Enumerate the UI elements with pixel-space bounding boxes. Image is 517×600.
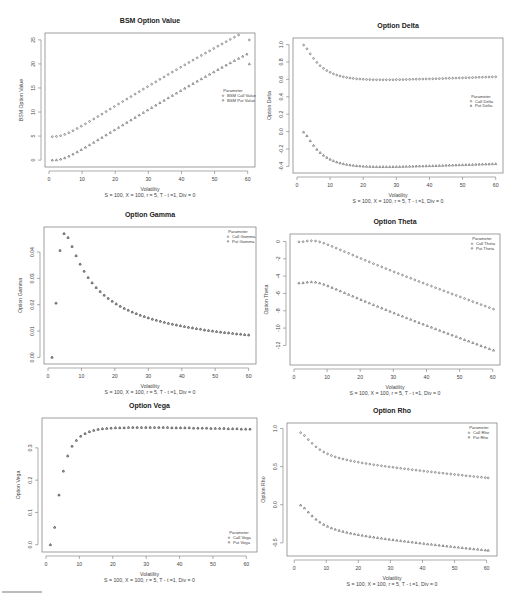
y-tick-label: 15 <box>30 85 36 91</box>
y-axis-label: Option Vega <box>15 471 21 500</box>
plot-frame <box>42 418 257 552</box>
x-tick-label: 30 <box>145 373 151 379</box>
x-tick-label: 0 <box>293 565 296 571</box>
y-tick-label: 20 <box>30 61 36 67</box>
legend-circle-icon <box>468 432 470 434</box>
x-tick-label: 40 <box>427 182 433 188</box>
figure-caption-fragment <box>2 591 42 593</box>
x-axis: 0102030405060VolatilityS = 100, X = 100,… <box>296 177 499 204</box>
y-tick-label: 0 <box>275 240 281 243</box>
chart-subtitle: S = 100, X = 100, r = 5, T - t =1, Div =… <box>105 192 196 198</box>
x-axis: 0102030405060VolatilityS = 100, X = 100,… <box>48 171 251 198</box>
chart-subtitle: S = 100, X = 100, r = 5, T - t =1, Div =… <box>104 577 195 583</box>
y-tick-label: 1.0 <box>278 41 284 48</box>
legend-entry: Put Vega <box>233 540 251 545</box>
legend: ParameterCall ThetaPut Theta <box>471 236 496 251</box>
y-tick-label: 5 <box>30 135 36 138</box>
x-tick-label: 30 <box>388 565 394 571</box>
y-tick-label: 0.03 <box>29 273 35 283</box>
chart-vega: Option Vega0102030405060VolatilityS = 10… <box>15 402 257 583</box>
x-tick-label: 10 <box>79 176 85 182</box>
y-tick-label: -6 <box>275 291 281 296</box>
chart-bsm: BSM Option Value0102030405060VolatilityS… <box>18 17 257 198</box>
legend: ParameterCall RhoPut Rho <box>468 425 490 440</box>
legend-entry: BSM Put Value <box>227 98 256 103</box>
series-call-theta <box>298 240 494 310</box>
x-tick-label: 30 <box>390 374 396 380</box>
x-tick-label: 0 <box>296 182 299 188</box>
options-greeks-figure: BSM Option Value0102030405060VolatilityS… <box>0 0 517 600</box>
series-put-rho <box>300 504 490 551</box>
legend-entry: Put Rho <box>473 435 489 440</box>
y-tick-label: -10 <box>275 324 281 332</box>
chart-title: Option Rho <box>373 407 411 415</box>
x-tick-label: 20 <box>112 176 118 182</box>
y-tick-label: 0.1 <box>27 509 33 516</box>
y-tick-label: -4 <box>275 274 281 279</box>
legend-circle-icon <box>471 243 473 245</box>
y-axis: 0510152025BSM Option Value <box>18 37 41 162</box>
chart-subtitle: S = 100, X = 100, r = 5, T - t =1, Div =… <box>350 390 441 396</box>
x-tick-label: 60 <box>484 565 490 571</box>
x-tick-label: 40 <box>420 565 426 571</box>
legend-triangle-icon <box>222 99 224 101</box>
x-tick-label: 20 <box>360 182 366 188</box>
x-tick-label: 0 <box>45 561 48 567</box>
x-tick-label: 50 <box>212 373 218 379</box>
x-tick-label: 40 <box>179 176 185 182</box>
y-tick-label: -0.4 <box>278 162 284 171</box>
y-axis-label: Option Gamma <box>17 278 23 313</box>
series-call-rho <box>300 432 489 479</box>
series-put-theta <box>298 281 495 351</box>
legend-triangle-icon <box>468 436 470 438</box>
x-tick-label: 20 <box>357 374 363 380</box>
y-tick-label: 0.0 <box>27 541 33 548</box>
x-tick-label: 20 <box>110 561 116 567</box>
y-tick-label: 0.6 <box>278 76 284 83</box>
x-tick-label: 50 <box>210 561 216 567</box>
x-tick-label: 40 <box>177 561 183 567</box>
plot-frame <box>287 423 497 556</box>
y-tick-label: 0.0 <box>278 128 284 135</box>
x-tick-label: 50 <box>457 374 463 380</box>
legend-entry: Put Theta <box>476 246 495 251</box>
x-tick-label: 60 <box>493 182 499 188</box>
y-axis: -0.50.00.51.0Option Rho <box>260 425 283 548</box>
y-axis-label: Option Rho <box>260 476 266 502</box>
legend-entry: Put Gamma <box>232 239 255 244</box>
x-axis: 0102030405060VolatilityS = 100, X = 100,… <box>47 368 252 395</box>
x-tick-label: 0 <box>48 176 51 182</box>
series-put-vega <box>49 426 251 545</box>
x-tick-label: 40 <box>179 373 185 379</box>
y-tick-label: -8 <box>275 308 281 313</box>
x-tick-label: 30 <box>145 176 151 182</box>
y-tick-label: 0.2 <box>278 110 284 117</box>
legend-triangle-icon <box>227 240 229 242</box>
plot-frame <box>290 234 500 365</box>
legend-circle-icon <box>470 100 472 102</box>
legend-circle-icon <box>227 236 229 238</box>
series-put-gamma <box>51 233 250 359</box>
legend-circle-icon <box>228 537 230 539</box>
y-tick-label: -2 <box>275 256 281 261</box>
chart-title: Option Delta <box>377 22 419 30</box>
y-axis-label: BSM Option Value <box>18 79 24 121</box>
x-tick-label: 50 <box>460 182 466 188</box>
x-tick-label: 20 <box>355 565 361 571</box>
series-call-gamma <box>51 233 249 359</box>
chart-title: Option Theta <box>373 218 416 226</box>
y-tick-label: 0 <box>30 159 36 162</box>
y-tick-label: 1.0 <box>272 425 278 432</box>
x-tick-label: 60 <box>243 561 249 567</box>
y-axis: 0-2-4-6-8-10-12Option Theta <box>263 240 286 349</box>
plot-frame <box>44 227 256 364</box>
y-tick-label: 25 <box>30 37 36 43</box>
y-tick-label: 0.8 <box>278 58 284 65</box>
x-axis: 0102030405060VolatilityS = 100, X = 100,… <box>293 369 496 396</box>
chart-gamma: Option Gamma0102030405060VolatilityS = 1… <box>17 211 256 395</box>
series-put-delta <box>303 131 497 168</box>
y-tick-label: 0.00 <box>29 352 35 362</box>
x-tick-label: 0 <box>293 374 296 380</box>
chart-theta: Option Theta0102030405060VolatilityS = 1… <box>263 218 500 396</box>
x-tick-label: 40 <box>424 374 430 380</box>
